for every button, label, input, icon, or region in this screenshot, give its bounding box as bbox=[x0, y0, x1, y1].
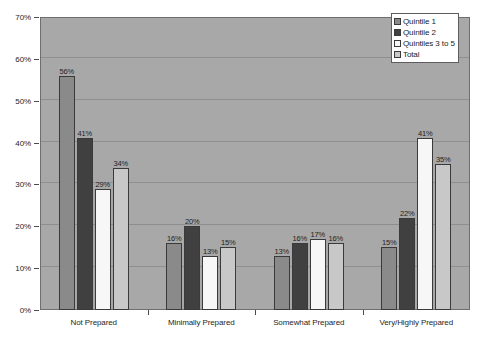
bar: 17% bbox=[310, 239, 326, 310]
bar-value-label: 15% bbox=[221, 238, 235, 247]
bar: 56% bbox=[59, 76, 75, 310]
bar-value-label: 16% bbox=[167, 234, 181, 243]
bar-value-label: 13% bbox=[203, 247, 217, 256]
y-axis-tick-label: 30% bbox=[15, 180, 31, 189]
y-axis-tick-label: 60% bbox=[15, 54, 31, 63]
x-axis-category-label: Minimally Prepared bbox=[168, 318, 235, 327]
y-axis-tick-mark bbox=[34, 184, 39, 185]
bar-chart: 0%10%20%30%40%50%60%70% 56%41%29%34%16%2… bbox=[0, 0, 486, 339]
bar: 16% bbox=[166, 243, 182, 310]
legend-label: Quintiles 3 to 5 bbox=[403, 39, 455, 48]
bar: 20% bbox=[184, 226, 200, 310]
x-axis-tick-mark bbox=[148, 310, 149, 315]
legend-label: Quintile 1 bbox=[403, 17, 436, 26]
y-axis-tick-mark bbox=[34, 59, 39, 60]
legend-swatch-icon bbox=[394, 40, 401, 47]
legend-swatch-icon bbox=[394, 29, 401, 36]
y-axis-tick-label: 70% bbox=[15, 13, 31, 22]
x-axis-category-label: Very/Highly Prepared bbox=[379, 318, 453, 327]
y-axis-tick-mark bbox=[34, 310, 39, 311]
y-axis-tick-label: 10% bbox=[15, 264, 31, 273]
y-axis-tick-mark bbox=[34, 101, 39, 102]
bar: 41% bbox=[77, 138, 93, 310]
legend-item[interactable]: Quintile 2 bbox=[394, 27, 455, 38]
y-axis-tick-label: 20% bbox=[15, 222, 31, 231]
y-axis-tick-mark bbox=[34, 268, 39, 269]
x-axis-tick-mark bbox=[255, 310, 256, 315]
bar-group: 56%41%29%34% bbox=[59, 17, 129, 310]
y-axis-tick-label: 50% bbox=[15, 96, 31, 105]
bar-value-label: 15% bbox=[382, 238, 396, 247]
bar: 34% bbox=[113, 168, 129, 310]
y-axis-tick-mark bbox=[34, 226, 39, 227]
x-axis-category-label: Not Prepared bbox=[71, 318, 117, 327]
bar-group: 13%16%17%16% bbox=[274, 17, 344, 310]
bar-value-label: 56% bbox=[60, 67, 74, 76]
bar-value-label: 13% bbox=[275, 247, 289, 256]
legend-swatch-icon bbox=[394, 18, 401, 25]
y-axis-tick-label: 0% bbox=[20, 306, 31, 315]
bar-value-label: 16% bbox=[293, 234, 307, 243]
chart-legend: Quintile 1Quintile 2Quintiles 3 to 5Tota… bbox=[391, 13, 459, 63]
legend-swatch-icon bbox=[394, 51, 401, 58]
bar: 13% bbox=[274, 256, 290, 310]
x-axis-category-label: Somewhat Prepared bbox=[273, 318, 344, 327]
y-axis: 0%10%20%30%40%50%60%70% bbox=[0, 17, 36, 310]
legend-label: Quintile 2 bbox=[403, 28, 436, 37]
bar: 22% bbox=[399, 218, 415, 310]
legend-item[interactable]: Total bbox=[394, 49, 455, 60]
bar-value-label: 35% bbox=[436, 155, 450, 164]
bar: 13% bbox=[202, 256, 218, 310]
bar-value-label: 41% bbox=[418, 129, 432, 138]
y-axis-tick-mark bbox=[34, 143, 39, 144]
bar: 29% bbox=[95, 189, 111, 310]
bar-value-label: 17% bbox=[311, 230, 325, 239]
bar-group: 16%20%13%15% bbox=[166, 17, 236, 310]
bar-value-label: 16% bbox=[329, 234, 343, 243]
legend-label: Total bbox=[403, 50, 419, 59]
y-axis-tick-label: 40% bbox=[15, 138, 31, 147]
bar-value-label: 22% bbox=[400, 209, 414, 218]
legend-item[interactable]: Quintile 1 bbox=[394, 16, 455, 27]
y-axis-tick-mark bbox=[34, 17, 39, 18]
bar-value-label: 41% bbox=[78, 129, 92, 138]
legend-item[interactable]: Quintiles 3 to 5 bbox=[394, 38, 455, 49]
bar-value-label: 20% bbox=[185, 217, 199, 226]
bar: 41% bbox=[417, 138, 433, 310]
x-axis-tick-mark bbox=[363, 310, 364, 315]
bar: 15% bbox=[220, 247, 236, 310]
bar-value-label: 34% bbox=[114, 159, 128, 168]
bar: 16% bbox=[328, 243, 344, 310]
bar: 35% bbox=[435, 164, 451, 311]
bar: 16% bbox=[292, 243, 308, 310]
bar: 15% bbox=[381, 247, 397, 310]
bar-value-label: 29% bbox=[96, 180, 110, 189]
